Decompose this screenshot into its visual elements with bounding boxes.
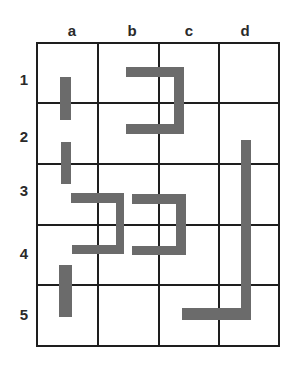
vertical-grid-line [36,43,38,347]
shape-segment [126,124,184,134]
shape-segment [61,142,71,184]
horizontal-grid-line [36,102,280,104]
column-label-c: c [185,23,193,38]
shape-segment [132,246,186,255]
row-label-1: 1 [20,72,28,87]
shape-segment [241,140,251,320]
horizontal-grid-line [36,42,280,44]
column-label-b: b [127,23,136,38]
horizontal-grid-line [36,345,280,347]
column-label-a: a [68,23,76,38]
row-label-5: 5 [20,307,28,322]
row-label-4: 4 [20,246,28,261]
grid-diagram: abcd 12345 [0,0,294,371]
shape-segment [72,245,124,254]
column-label-d: d [240,23,249,38]
shape-segment [182,308,251,320]
vertical-grid-line [278,43,280,347]
row-label-2: 2 [20,129,28,144]
row-label-3: 3 [20,183,28,198]
vertical-grid-line [218,43,220,347]
shape-segment [59,265,72,317]
shape-segment [116,193,124,253]
shape-segment [60,77,71,120]
